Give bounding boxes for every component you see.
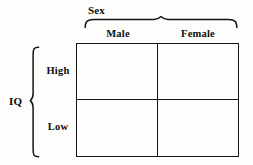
matrix-cell-high-male[interactable] (77, 44, 158, 100)
factorial-design-figure: Sex Male Female IQ High Low (0, 0, 253, 165)
column-header-male: Male (78, 29, 158, 40)
matrix-cell-low-female[interactable] (158, 100, 239, 156)
row-header-high: High (42, 66, 74, 77)
top-curly-brace-icon (83, 16, 239, 28)
left-curly-brace-icon (29, 45, 40, 159)
column-factor-title: Sex (0, 5, 223, 16)
column-header-female: Female (158, 29, 238, 40)
matrix-cell-value (158, 100, 239, 156)
row-factor-title: IQ (9, 96, 22, 107)
design-matrix (76, 43, 239, 157)
matrix-cell-value (77, 100, 157, 156)
matrix-cell-value (158, 44, 239, 99)
matrix-cell-value (77, 44, 157, 99)
matrix-cell-low-male[interactable] (77, 100, 158, 156)
matrix-cell-high-female[interactable] (158, 44, 239, 100)
row-header-low: Low (42, 122, 74, 133)
